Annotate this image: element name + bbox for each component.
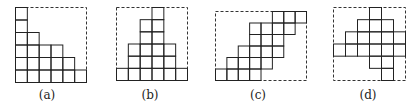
grid-cell: [164, 56, 176, 68]
grid-cell: [140, 44, 152, 56]
grid-cell: [63, 70, 75, 83]
grid-cell: [164, 68, 176, 80]
grid-cell: [284, 12, 295, 24]
grid-cell: [152, 8, 164, 20]
grid-cell: [16, 45, 28, 58]
grid-cell: [272, 46, 283, 58]
panel-label-d: (d): [359, 88, 376, 102]
grid-cell: [39, 70, 51, 83]
grid-cell: [164, 44, 176, 56]
panel-label-b: (b): [141, 88, 158, 102]
grid-cell: [382, 44, 394, 56]
grid-cell: [238, 58, 249, 70]
grid-cell: [346, 44, 358, 56]
grid-cell: [358, 20, 370, 32]
grid-cell: [140, 56, 152, 68]
panel-d: [334, 8, 406, 81]
grid-cell: [250, 35, 261, 47]
grid-cell: [382, 68, 394, 80]
grid-cell: [63, 58, 75, 71]
grid-cell: [261, 35, 272, 47]
grid-cell: [261, 46, 272, 58]
grid-cell: [16, 20, 28, 33]
grid-cell: [382, 56, 394, 68]
grid-cell: [216, 69, 227, 81]
grid-cell: [358, 44, 370, 56]
panel-label-a: (a): [39, 88, 56, 102]
grid-cell: [227, 58, 238, 70]
grid-cell: [370, 32, 382, 44]
grid-cell: [250, 58, 261, 70]
grid-cell: [16, 8, 28, 21]
panel-b: [117, 8, 188, 81]
grid-cell: [261, 58, 272, 70]
grid-cell: [250, 69, 261, 81]
grid-cell: [370, 44, 382, 56]
grid-cell: [382, 32, 394, 44]
grid-cell: [51, 70, 63, 83]
grid-cell: [128, 56, 140, 68]
grid-cell: [250, 23, 261, 35]
grid-cell: [394, 32, 406, 44]
grid-cell: [51, 45, 63, 58]
grid-cell: [39, 45, 51, 58]
grid-cell: [27, 58, 39, 71]
grid-cell: [382, 20, 394, 32]
grid-cell: [394, 44, 406, 56]
grid-cell: [39, 58, 51, 71]
grid-cell: [250, 46, 261, 58]
grid-cell: [27, 70, 39, 83]
grid-cell: [16, 58, 28, 71]
grid-cell: [16, 70, 28, 83]
grid-cell: [227, 69, 238, 81]
grid-cell: [152, 44, 164, 56]
grid-cell: [238, 46, 249, 58]
grid-cell: [152, 20, 164, 32]
grid-cell: [117, 68, 129, 80]
grid-cell: [27, 45, 39, 58]
panel-a: [16, 8, 87, 83]
grid-cell: [152, 32, 164, 44]
grid-cell: [272, 35, 283, 47]
grid-cell: [370, 56, 382, 68]
grid-cell: [140, 32, 152, 44]
grid-cell: [140, 68, 152, 80]
grid-cell: [295, 12, 306, 24]
grid-cell: [272, 12, 283, 24]
panel-label-c: (c): [250, 88, 266, 102]
grid-cell: [358, 32, 370, 44]
panel-c: [216, 12, 307, 81]
grid-cell: [152, 68, 164, 80]
grid-cell: [128, 44, 140, 56]
grid-cell: [51, 58, 63, 71]
grid-cell: [16, 33, 28, 46]
grid-cell: [346, 32, 358, 44]
grid-cell: [140, 20, 152, 32]
grid-cell: [75, 70, 87, 83]
grid-cell: [370, 8, 382, 20]
grid-cell: [284, 23, 295, 35]
grid-cell: [152, 56, 164, 68]
polyomino-figure: [0, 0, 420, 106]
grid-cell: [128, 68, 140, 80]
grid-cell: [370, 20, 382, 32]
grid-cell: [334, 44, 346, 56]
grid-cell: [238, 69, 249, 81]
grid-cell: [27, 33, 39, 46]
grid-cell: [272, 23, 283, 35]
grid-cell: [261, 23, 272, 35]
grid-cell: [176, 68, 188, 80]
